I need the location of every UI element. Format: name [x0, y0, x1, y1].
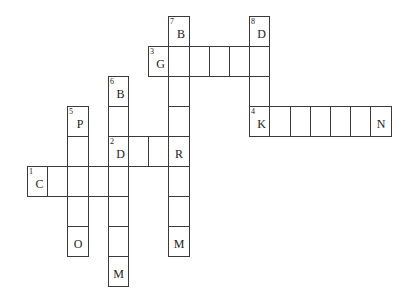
crossword-cell[interactable]: [168, 46, 190, 77]
crossword-cell[interactable]: [330, 106, 351, 137]
cell-letter: O: [68, 238, 88, 251]
clue-number: 4: [251, 107, 255, 116]
crossword-cell[interactable]: [168, 166, 190, 197]
crossword-cell[interactable]: [209, 46, 230, 77]
crossword-cell[interactable]: [108, 166, 129, 197]
crossword-cell[interactable]: [290, 106, 311, 137]
cell-letter: M: [109, 268, 128, 281]
crossword-cell[interactable]: [108, 196, 129, 227]
crossword-cell[interactable]: [47, 166, 68, 197]
crossword-cell[interactable]: R: [168, 136, 190, 167]
crossword-cell[interactable]: [269, 106, 291, 137]
crossword-cell[interactable]: [67, 136, 89, 167]
crossword-cell[interactable]: [148, 136, 169, 167]
cell-letter: P: [72, 118, 88, 131]
cell-letter: C: [32, 178, 47, 191]
crossword-cell[interactable]: 6B: [108, 76, 129, 107]
crossword-cell[interactable]: 3G: [148, 46, 169, 77]
clue-number: 3: [150, 47, 154, 56]
cell-letter: G: [153, 58, 168, 71]
cell-letter: N: [371, 118, 391, 131]
crossword-cell[interactable]: [128, 136, 149, 167]
clue-number: 6: [110, 77, 114, 86]
crossword-cell[interactable]: [168, 76, 190, 107]
crossword-grid: 7B8D3G6B5P4KN2DR1COMM: [0, 0, 407, 298]
clue-number: 1: [29, 167, 33, 176]
cell-letter: B: [113, 88, 128, 101]
cell-letter: K: [254, 118, 269, 131]
cell-letter: M: [169, 238, 189, 251]
crossword-cell[interactable]: M: [108, 256, 129, 287]
crossword-cell[interactable]: M: [168, 226, 190, 257]
crossword-cell[interactable]: [249, 76, 270, 107]
crossword-cell[interactable]: [88, 166, 109, 197]
cell-letter: D: [254, 28, 269, 41]
crossword-cell[interactable]: [67, 196, 89, 227]
crossword-cell[interactable]: O: [67, 226, 89, 257]
crossword-cell[interactable]: 8D: [249, 16, 270, 47]
crossword-cell[interactable]: [108, 226, 129, 257]
crossword-cell[interactable]: [249, 46, 270, 77]
crossword-cell[interactable]: [229, 46, 250, 77]
crossword-cell[interactable]: 2D: [108, 136, 129, 167]
clue-number: 8: [251, 17, 255, 26]
crossword-cell[interactable]: 5P: [67, 106, 89, 137]
clue-number: 7: [170, 17, 174, 26]
crossword-cell[interactable]: [108, 106, 129, 137]
crossword-cell[interactable]: N: [370, 106, 392, 137]
crossword-cell[interactable]: [168, 106, 190, 137]
crossword-cell[interactable]: [168, 196, 190, 227]
cell-letter: R: [169, 148, 189, 161]
crossword-cell[interactable]: [67, 166, 89, 197]
crossword-cell[interactable]: [189, 46, 210, 77]
clue-number: 5: [69, 107, 73, 116]
cell-letter: D: [113, 148, 128, 161]
cell-letter: B: [173, 28, 189, 41]
crossword-cell[interactable]: [350, 106, 371, 137]
clue-number: 2: [110, 137, 114, 146]
crossword-cell[interactable]: 4K: [249, 106, 270, 137]
crossword-cell[interactable]: 1C: [27, 166, 48, 197]
crossword-cell[interactable]: 7B: [168, 16, 190, 47]
crossword-cell[interactable]: [310, 106, 331, 137]
